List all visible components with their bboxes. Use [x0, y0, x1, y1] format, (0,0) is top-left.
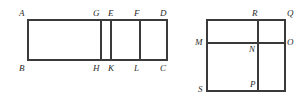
label-p: P: [250, 80, 256, 89]
figure-right: R Q M N O S P: [0, 0, 304, 99]
geometry-figures-canvas: A G E F D B H K L C R Q M N O S P: [0, 0, 304, 99]
label-n: N: [249, 45, 255, 54]
label-m: M: [195, 38, 203, 47]
label-s: S: [198, 85, 203, 94]
label-o: O: [287, 38, 294, 47]
label-q: Q: [287, 9, 294, 18]
label-r: R: [252, 9, 258, 18]
square-outline: [207, 20, 285, 91]
figure-right-lines: [0, 0, 304, 99]
